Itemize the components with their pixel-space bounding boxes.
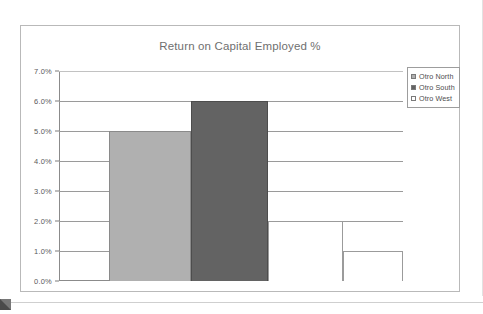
screenshot-canvas: Return on Capital Employed % 7.0%6.0%5.0… — [0, 0, 483, 314]
legend-swatch-icon — [411, 74, 416, 79]
chart-legend[interactable]: Otro NorthOtro SouthOtro West — [407, 67, 460, 108]
legend-item-label: Otro North — [419, 72, 454, 81]
y-axis-tick-label: 1.0% — [34, 247, 55, 256]
y-axis-tick-label: 6.0% — [34, 97, 55, 106]
y-axis-tick: 6.0% — [34, 97, 59, 106]
y-axis-tick: 0.0% — [34, 277, 59, 286]
y-axis-tick-label: 3.0% — [34, 187, 55, 196]
y-axis-tick: 3.0% — [34, 187, 59, 196]
bar[interactable] — [109, 131, 191, 281]
y-axis-tick-label: 0.0% — [34, 277, 55, 286]
y-axis-tick-label: 5.0% — [34, 127, 55, 136]
legend-swatch-icon — [411, 96, 416, 101]
y-axis-tick-label: 4.0% — [34, 157, 55, 166]
plot-wrapper: 7.0%6.0%5.0%4.0%3.0%2.0%1.0%0.0% — [59, 71, 403, 281]
bar[interactable] — [343, 251, 403, 281]
legend-item-label: Otro South — [419, 83, 455, 92]
y-axis-tick: 2.0% — [34, 217, 59, 226]
bar[interactable] — [268, 221, 343, 281]
bar-series — [59, 71, 403, 281]
chart-frame: Return on Capital Employed % 7.0%6.0%5.0… — [20, 25, 460, 292]
legend-item[interactable]: Otro South — [411, 82, 455, 93]
legend-item[interactable]: Otro West — [411, 93, 455, 104]
legend-swatch-icon — [411, 85, 416, 90]
y-axis-tick: 1.0% — [34, 247, 59, 256]
legend-item-label: Otro West — [419, 94, 452, 103]
chart-title: Return on Capital Employed % — [21, 40, 459, 52]
y-axis-tick: 5.0% — [34, 127, 59, 136]
y-axis-tick-label: 7.0% — [34, 67, 55, 76]
y-axis-tick: 7.0% — [34, 67, 59, 76]
page-corner-marker — [0, 299, 11, 310]
bar[interactable] — [191, 101, 268, 281]
y-axis-tick: 4.0% — [34, 157, 59, 166]
page-divider-rule — [10, 302, 483, 303]
legend-item[interactable]: Otro North — [411, 71, 455, 82]
y-axis-tick-label: 2.0% — [34, 217, 55, 226]
